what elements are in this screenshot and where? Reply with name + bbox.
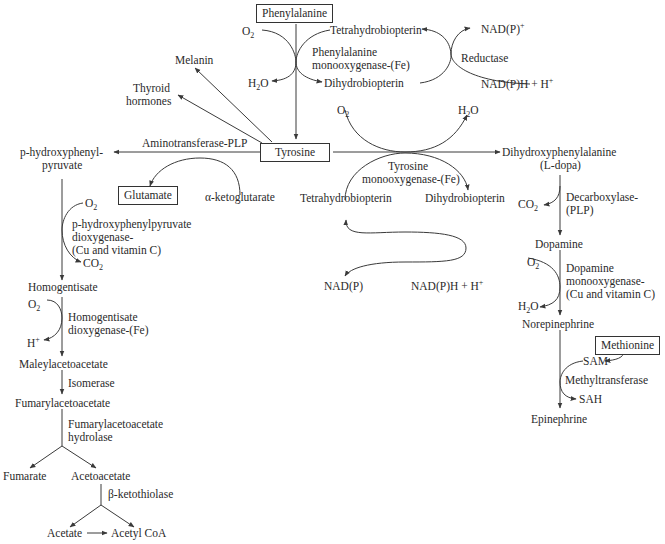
h2o-right: H2O [518, 300, 539, 313]
dbh-line1: Dopamine [566, 262, 614, 275]
tyrosine-monooxygenase-line1: Tyrosine [388, 160, 428, 173]
nadp-plus-top: NAD(P)+ [481, 23, 525, 36]
phenylalanine-label: Phenylalanine [262, 7, 327, 19]
tyrosine-monooxygenase-line2: monooxygenase-(Fe) [362, 173, 460, 186]
nadph-top: NAD(P)H + H+ [481, 78, 553, 91]
alpha-ketoglutarate-label: α-ketoglutarate [205, 191, 275, 204]
tyrosine-label: Tyrosine [275, 146, 315, 158]
faa-hydrolase-line1: Fumarylacetoacetate [68, 418, 163, 431]
dihydrobiopterin-top: Dihydrobiopterin [324, 77, 404, 90]
hg-dioxygenase-line1: Homogentisate [68, 311, 138, 324]
methionine-box: Methionine [595, 336, 660, 355]
nadph-mid: NAD(P)H + H+ [411, 280, 483, 293]
thyroid-label-2: hormones [126, 95, 171, 108]
phenylalanine-monooxygenase-line2: monooxygenase-(Fe) [312, 59, 410, 72]
fumarylacetoacetate-label: Fumarylacetoacetate [15, 397, 110, 410]
acetoacetate-label: Acetoacetate [71, 470, 130, 483]
decarboxylase-line2: (PLP) [566, 204, 593, 217]
phpp-dioxygenase-line3: (Cu and vitamin C) [72, 244, 161, 257]
methyltransferase-label: Methyltransferase [565, 374, 648, 387]
norepinephrine-label: Norepinephrine [522, 318, 594, 331]
methionine-label: Methionine [601, 339, 654, 351]
faa-hydrolase-line2: hydrolase [68, 431, 113, 444]
decarboxylase-line1: Decarboxylase- [566, 191, 638, 204]
ldopa-label-2: (L-dopa) [540, 159, 581, 172]
homogentisate-label: Homogentisate [28, 281, 98, 294]
dopamine-label: Dopamine [535, 238, 583, 251]
phenylalanine-box: Phenylalanine [256, 4, 333, 23]
pathway-diagram: Phenylalanine Tyrosine Glutamate Methion… [0, 0, 665, 544]
co2-left: CO2 [83, 257, 103, 270]
acetate-label: Acetate [47, 527, 82, 540]
o2-left: O2 [85, 197, 97, 210]
melanin-label: Melanin [175, 54, 213, 67]
o2-right: O2 [527, 256, 539, 269]
fumarate-label: Fumarate [3, 470, 46, 483]
h-plus-left: H+ [27, 337, 40, 350]
phpp-label-1: p-hydroxyphenyl- [20, 146, 103, 159]
maleylacetoacetate-label: Maleylacetoacetate [19, 358, 108, 371]
tetrahydrobiopterin-mid: Tetrahydrobiopterin [300, 192, 392, 205]
dbh-line3: (Cu and vitamin C) [566, 288, 655, 301]
epinephrine-label: Epinephrine [531, 413, 587, 426]
ldopa-label-1: Dihydroxyphenylalanine [502, 146, 616, 159]
glutamate-box: Glutamate [118, 186, 178, 205]
sah-label: SAH [579, 393, 602, 406]
dihydrobiopterin-mid: Dihydrobiopterin [425, 192, 505, 205]
thyroid-label-1: Thyroid [133, 82, 170, 95]
o2-top: O2 [242, 25, 254, 38]
ketothiolase-label: β-ketothiolase [108, 488, 173, 501]
phenylalanine-monooxygenase-line1: Phenylalanine [312, 46, 377, 59]
phpp-label-2: pyruvate [42, 159, 82, 172]
tyrosine-box: Tyrosine [260, 143, 330, 162]
glutamate-label: Glutamate [124, 189, 172, 201]
hg-dioxygenase-line2: dioxygenase-(Fe) [68, 324, 148, 337]
isomerase-label: Isomerase [68, 377, 115, 390]
phpp-dioxygenase-line1: p-hydroxyphenylpyruvate [72, 218, 191, 231]
tetrahydrobiopterin-top: Tetrahydrobiopterin [330, 24, 422, 37]
h2o-mid: H2O [458, 104, 479, 117]
acetyl-coa-label: Acetyl CoA [111, 527, 166, 540]
co2-right: CO2 [518, 198, 538, 211]
reductase-label: Reductase [461, 52, 508, 65]
aminotransferase-label: Aminotransferase-PLP [142, 137, 247, 150]
sam-label: SAM [583, 355, 608, 368]
h2o-top: H2O [248, 77, 269, 90]
phpp-dioxygenase-line2: dioxygenase- [72, 231, 133, 244]
dbh-line2: monooxygenase- [566, 275, 645, 288]
o2-left2: O2 [28, 298, 40, 311]
nadp-mid: NAD(P) [324, 280, 363, 293]
o2-mid: O2 [337, 104, 349, 117]
